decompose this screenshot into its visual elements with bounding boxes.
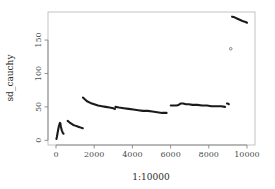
y-tick-label: 100 bbox=[34, 66, 43, 81]
plot-background bbox=[0, 0, 275, 189]
x-tick-label: 10000 bbox=[234, 150, 259, 159]
x-tick-label: 2000 bbox=[84, 150, 104, 159]
chart-container: 0200040006000800010000 050100150 1:10000… bbox=[0, 0, 275, 189]
x-tick-label: 8000 bbox=[199, 150, 219, 159]
x-axis-label: 1:10000 bbox=[132, 172, 170, 182]
x-tick-label: 6000 bbox=[160, 150, 180, 159]
y-tick-label: 0 bbox=[34, 138, 43, 143]
scatter-plot: 0200040006000800010000 050100150 1:10000… bbox=[0, 0, 275, 189]
x-tick-label: 0 bbox=[53, 150, 58, 159]
y-tick-label: 50 bbox=[34, 102, 43, 112]
y-tick-label: 150 bbox=[34, 32, 43, 47]
data-series-short-step-8950-9050 bbox=[227, 104, 229, 105]
y-axis-label: sd_cauchy bbox=[5, 54, 16, 102]
x-tick-label: 4000 bbox=[122, 150, 142, 159]
